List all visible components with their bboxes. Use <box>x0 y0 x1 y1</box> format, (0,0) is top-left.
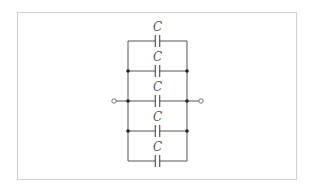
capacitor-4: C <box>128 110 187 137</box>
junction-dot-icon <box>185 69 189 73</box>
junction-dot-icon <box>126 129 130 133</box>
capacitor-label: C <box>153 110 162 124</box>
capacitor-label: C <box>153 20 162 34</box>
capacitor-1: C <box>128 20 187 47</box>
capacitor-5: C <box>128 140 187 167</box>
capacitor-2: C <box>128 50 187 77</box>
capacitor-group: CCCCC <box>128 20 187 167</box>
junction-dot-icon <box>185 99 189 103</box>
right-terminal-icon <box>199 99 203 103</box>
capacitor-3: C <box>128 80 187 107</box>
capacitor-label: C <box>153 140 162 154</box>
junction-dot-icon <box>126 69 130 73</box>
capacitor-label: C <box>153 50 162 64</box>
junction-dot-icon <box>126 99 130 103</box>
capacitor-label: C <box>153 80 162 94</box>
junction-dot-icon <box>185 129 189 133</box>
circuit-diagram: CCCCC <box>0 0 314 190</box>
left-terminal-icon <box>112 99 116 103</box>
